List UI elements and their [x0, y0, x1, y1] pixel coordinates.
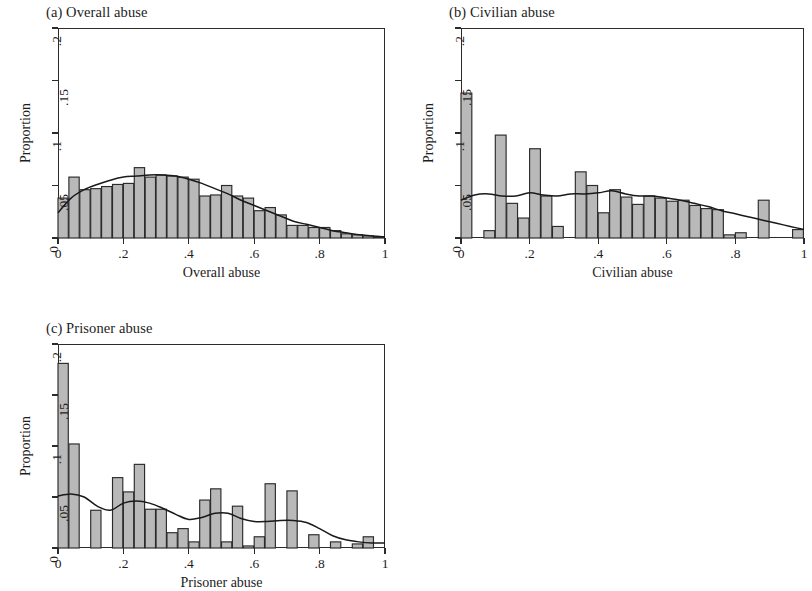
histogram-bar [69, 444, 79, 548]
y-tick-label: .1 [49, 454, 65, 464]
histogram-bar [134, 464, 144, 548]
histogram-bar [287, 491, 297, 548]
histogram-bar [178, 529, 188, 548]
histogram-bar [189, 542, 199, 548]
x-axis-label-c: Prisoner abuse [58, 575, 385, 591]
x-tick-mark [57, 548, 58, 554]
x-tick-label: 1 [365, 556, 405, 572]
x-tick-label: 0 [38, 556, 78, 572]
y-axis-label-c: Proportion [18, 416, 34, 476]
histogram-bar [309, 535, 319, 548]
histogram-bar [113, 478, 123, 548]
x-tick-mark [254, 548, 255, 554]
y-tick-label: .2 [49, 352, 65, 362]
histogram-bar [167, 533, 177, 548]
histogram-bar [145, 509, 155, 548]
x-tick-label: .8 [300, 556, 340, 572]
histogram-bar [123, 492, 133, 548]
histogram-bar [243, 546, 253, 548]
x-tick-mark [188, 548, 189, 554]
histogram-bar [211, 489, 221, 548]
x-tick-label: .2 [103, 556, 143, 572]
x-tick-mark [319, 548, 320, 554]
x-tick-label: .4 [169, 556, 209, 572]
histogram-bar [200, 500, 210, 548]
histogram-bar [222, 542, 232, 548]
x-tick-mark [384, 548, 385, 554]
histogram-bar [265, 484, 275, 548]
histogram-bar [330, 542, 340, 548]
y-tick-label: .05 [56, 505, 72, 522]
x-tick-label: .6 [234, 556, 274, 572]
histogram-bar [232, 506, 242, 548]
histogram-bar [156, 509, 166, 548]
histogram-bar [352, 544, 362, 548]
histogram-bar [91, 510, 101, 548]
x-tick-mark [123, 548, 124, 554]
histogram-bar [254, 537, 264, 548]
y-tick-mark [52, 343, 58, 344]
y-tick-label: .15 [56, 403, 72, 420]
y-tick-mark [52, 445, 58, 446]
density-curve-c [58, 494, 385, 543]
y-tick-mark [52, 394, 58, 395]
y-tick-mark [52, 496, 58, 497]
